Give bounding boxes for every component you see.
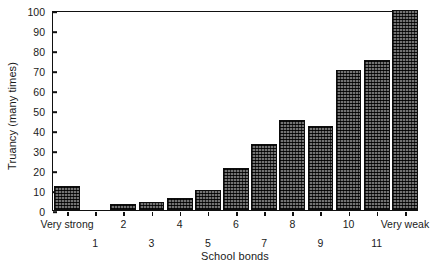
- x-axis-tick-mark: [236, 212, 238, 216]
- x-axis-tick-label: Very strong: [41, 219, 94, 230]
- x-axis-tick-mark: [320, 212, 322, 216]
- y-axis-tick-label: 40: [7, 127, 45, 137]
- bar: [195, 190, 221, 210]
- bar-slot: [391, 12, 419, 210]
- bar-slot: [335, 12, 363, 210]
- y-axis-tick-label: 70: [7, 67, 45, 77]
- bar-slot: [53, 12, 81, 210]
- bar: [392, 10, 418, 210]
- bar: [308, 126, 334, 210]
- y-axis-tick-label: 20: [7, 167, 45, 177]
- x-axis-tick-mark: [292, 212, 294, 216]
- bar: [54, 186, 80, 210]
- y-axis-tick-label: 10: [7, 187, 45, 197]
- x-axis-tick-mark: [264, 212, 266, 216]
- x-axis-tick-label: 7: [261, 238, 267, 249]
- bar-slot: [250, 12, 278, 210]
- x-axis-tick-label: 10: [343, 219, 355, 230]
- bar: [279, 120, 305, 210]
- x-axis-title: School bonds: [52, 250, 418, 262]
- x-axis-tick-mark: [123, 212, 125, 216]
- x-axis-tick-label: 6: [233, 219, 239, 230]
- bar-slot: [166, 12, 194, 210]
- bar-slot: [278, 12, 306, 210]
- x-axis-tick-label: 4: [177, 219, 183, 230]
- x-axis-tick-label: Very weak: [381, 219, 429, 230]
- y-axis-tick-label: 0: [7, 207, 45, 217]
- y-axis-tick-mark: [53, 211, 57, 213]
- plot-area: 0102030405060708090100 Very strong246810…: [52, 11, 418, 211]
- x-axis-tick-label: 3: [149, 238, 155, 249]
- bar: [139, 202, 165, 210]
- x-axis-tick-mark: [67, 212, 69, 216]
- x-axis-tick-mark: [377, 212, 379, 216]
- x-axis-tick-mark: [349, 212, 351, 216]
- bar: [251, 144, 277, 210]
- bar-slot: [137, 12, 165, 210]
- x-axis-tick-label: 1: [92, 238, 98, 249]
- bar-slot: [194, 12, 222, 210]
- bar: [364, 60, 390, 210]
- x-axis-tick-mark: [95, 212, 97, 216]
- y-axis-tick-label: 50: [7, 107, 45, 117]
- x-axis-tick-label: 11: [371, 238, 382, 249]
- y-axis-tick-label: 30: [7, 147, 45, 157]
- bar: [110, 204, 136, 210]
- x-axis-tick-label: 8: [289, 219, 295, 230]
- bar-chart-figure: Truancy (many times) 0102030405060708090…: [0, 0, 440, 272]
- y-axis-tick-label: 60: [7, 87, 45, 97]
- bar-slot: [306, 12, 334, 210]
- x-axis-tick-mark: [152, 212, 154, 216]
- bar: [336, 70, 362, 210]
- x-axis-tick-mark: [405, 212, 407, 216]
- bar: [167, 198, 193, 210]
- bar-slot: [222, 12, 250, 210]
- bar-series: [53, 12, 417, 210]
- x-axis-tick-label: 2: [120, 219, 126, 230]
- x-axis-tick-label: 5: [205, 238, 211, 249]
- y-axis-tick-label: 90: [7, 27, 45, 37]
- x-axis-tick-mark: [208, 212, 210, 216]
- bar-slot: [363, 12, 391, 210]
- bar: [223, 168, 249, 210]
- x-axis-tick-mark: [180, 212, 182, 216]
- y-axis-tick-label: 80: [7, 47, 45, 57]
- x-axis-tick-label: 9: [318, 238, 324, 249]
- bar-slot: [81, 12, 109, 210]
- bar-slot: [109, 12, 137, 210]
- y-axis-tick-label: 100: [7, 7, 45, 17]
